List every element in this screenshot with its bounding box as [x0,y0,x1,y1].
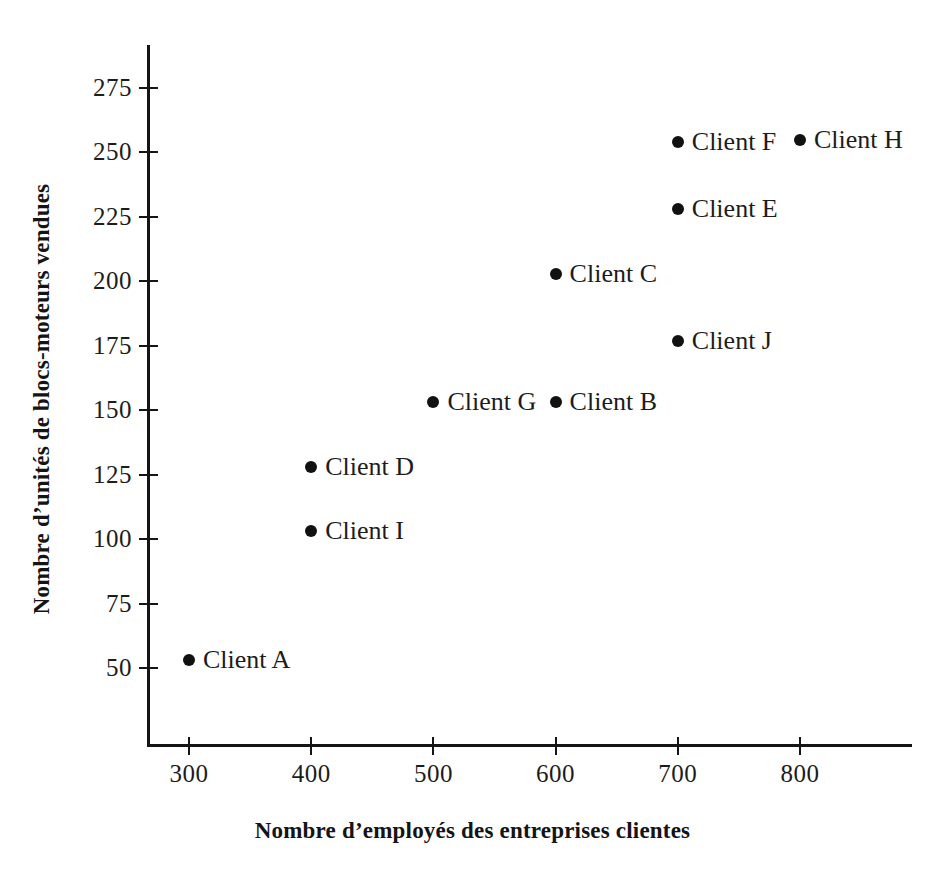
data-point-marker [672,335,684,347]
y-tick-label-text: 275 [72,75,132,100]
y-tick-label: 75 [60,591,132,616]
data-point-marker [550,396,562,408]
scatter-chart-figure: 5075100125150175200225250275 30040050060… [0,0,945,883]
x-tick-label: 500 [393,760,473,788]
data-point-label: Client C [570,258,657,290]
data-point-label: Client G [447,386,536,418]
y-axis-title: Nombre d’unités de blocs-moteurs vendues [29,89,55,709]
y-tick-label-text: 50 [72,655,132,680]
y-tick-label-text: 200 [72,268,132,293]
y-tick-label: 250 [60,139,132,164]
y-tick-label-text: 125 [72,462,132,487]
y-tick-label-text: 225 [72,204,132,229]
y-tick-label: 125 [60,462,132,487]
data-point-marker [305,461,317,473]
y-tick-label: 200 [60,268,132,293]
x-tick-label: 300 [149,760,229,788]
y-tick-label: 175 [60,333,132,358]
data-point-marker [305,525,317,537]
y-tick-label-text: 75 [72,591,132,616]
data-point-marker [672,136,684,148]
y-tick-label: 150 [60,397,132,422]
data-point-marker [183,654,195,666]
data-point-marker [550,268,562,280]
y-tick-label-text: 175 [72,333,132,358]
data-point-marker [672,203,684,215]
data-point-label: Client A [203,644,290,676]
y-tick-label: 275 [60,75,132,100]
data-point-label: Client E [692,193,778,225]
data-point-label: Client J [692,325,772,357]
data-point-marker [794,134,806,146]
y-tick-label: 225 [60,204,132,229]
y-tick-label-text: 150 [72,397,132,422]
data-point-label: Client D [325,451,414,483]
x-tick-label: 700 [638,760,718,788]
y-tick-label-text: 100 [72,526,132,551]
y-tick-label-text: 250 [72,139,132,164]
y-tick-label: 100 [60,526,132,551]
y-tick-label: 50 [60,655,132,680]
data-point-marker [427,396,439,408]
data-point-label: Client B [570,386,657,418]
plot-area: Client AClient IClient DClient GClient B… [147,45,912,745]
x-tick-label: 800 [760,760,840,788]
x-tick-label: 600 [516,760,596,788]
x-axis-title: Nombre d’employés des entreprises client… [0,818,945,844]
data-point-label: Client F [692,126,777,158]
x-tick-label: 400 [271,760,351,788]
data-point-label: Client I [325,515,404,547]
data-point-label: Client H [814,124,903,156]
